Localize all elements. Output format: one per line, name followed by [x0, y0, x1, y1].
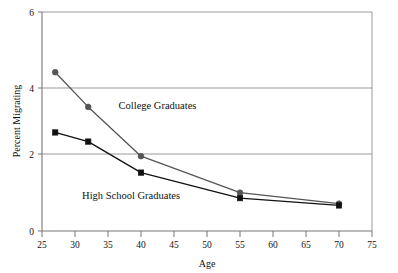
x-tick-label-60: 60: [268, 240, 278, 250]
chart-background: [0, 0, 398, 273]
annotation-college-graduates: College Graduates: [119, 100, 197, 111]
x-axis-title: Age: [199, 258, 216, 269]
x-tick-label-75: 75: [367, 240, 377, 250]
y-tick-label-0: 0: [29, 227, 34, 237]
chart-plot-area: 6 4 2 0 25 30 35 40 45 50 55 60 65 70 75: [0, 0, 398, 273]
y-axis-title: Percent Migrating: [11, 85, 22, 157]
data-point-square: [336, 203, 341, 208]
x-tick-label-35: 35: [103, 240, 113, 250]
x-tick-label-25: 25: [37, 240, 47, 250]
y-tick-label-6: 6: [29, 8, 34, 18]
migration-by-age-chart: 6 4 2 0 25 30 35 40 45 50 55 60 65 70 75: [0, 0, 398, 273]
data-point-circle: [237, 190, 243, 196]
data-point-circle: [138, 153, 144, 159]
x-tick-label-40: 40: [136, 240, 146, 250]
data-point-circle: [85, 104, 91, 110]
y-tick-label-2: 2: [29, 150, 34, 160]
data-point-square: [86, 139, 91, 144]
x-tick-label-30: 30: [70, 240, 80, 250]
data-point-square: [53, 130, 58, 135]
data-point-square: [237, 195, 242, 200]
x-tick-label-45: 45: [169, 240, 179, 250]
data-point-square: [138, 170, 143, 175]
data-point-circle: [52, 69, 58, 75]
x-tick-label-50: 50: [202, 240, 212, 250]
x-tick-label-55: 55: [235, 240, 245, 250]
annotation-high-school-graduates: High School Graduates: [82, 190, 180, 201]
y-tick-label-4: 4: [29, 84, 34, 94]
x-tick-label-70: 70: [334, 240, 344, 250]
x-tick-label-65: 65: [301, 240, 311, 250]
